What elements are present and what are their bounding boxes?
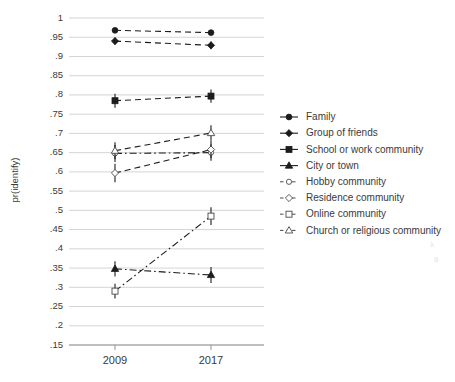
- legend-item-school-or-work-community[interactable]: School or work community: [280, 144, 423, 155]
- data-point-marker: [285, 227, 292, 233]
- series-group-of-friends: [111, 37, 214, 49]
- series-line: [115, 216, 211, 291]
- legend-item-label: School or work community: [306, 144, 423, 155]
- legend-item-label: Group of friends: [306, 127, 378, 138]
- legend-item-label: Family: [306, 111, 335, 122]
- data-point-marker: [112, 98, 118, 104]
- data-point-marker: [286, 211, 292, 217]
- watermark-artifact-2: 8: [434, 255, 439, 264]
- data-point-marker: [208, 213, 214, 219]
- series-line: [115, 30, 211, 32]
- data-point-marker: [285, 194, 292, 201]
- x-tick-label: 2017: [199, 354, 223, 366]
- series-family: [112, 27, 214, 35]
- y-tick-label: .65: [50, 146, 63, 157]
- legend-item-online-community[interactable]: Online community: [280, 208, 386, 219]
- gridlines-group: [69, 18, 264, 345]
- data-point-marker: [207, 42, 214, 49]
- x-axis-group: [69, 345, 264, 350]
- series-church-or-religious-community: [111, 125, 214, 159]
- legend-item-label: Church or religious community: [306, 225, 441, 236]
- data-point-marker: [286, 114, 292, 120]
- data-point-marker: [112, 27, 118, 33]
- series-city-or-town: [111, 261, 214, 283]
- y-tick-label: .2: [55, 319, 63, 330]
- legend-item-church-or-religious-community[interactable]: Church or religious community: [280, 225, 441, 236]
- y-tick-label: .25: [50, 300, 63, 311]
- data-point-marker: [208, 93, 214, 99]
- y-tick-label: .45: [50, 223, 63, 234]
- data-point-marker: [286, 179, 291, 184]
- y-tick-label: .7: [55, 127, 63, 138]
- legend-item-hobby-community[interactable]: Hobby community: [280, 176, 386, 187]
- y-axis-tick-labels: 1.95.9.85.8.75.7.65.6.55.5.45.4.35.3.25.…: [50, 12, 63, 350]
- series-school-or-work-community: [112, 90, 214, 108]
- y-tick-label: .3: [55, 281, 63, 292]
- y-tick-label: .85: [50, 69, 63, 80]
- y-axis-title: pr(identify): [9, 158, 20, 203]
- series-line: [115, 41, 211, 45]
- data-point-marker: [111, 37, 118, 44]
- y-tick-label: .55: [50, 185, 63, 196]
- watermark-artifact: λ: [430, 240, 434, 249]
- y-tick-label: .35: [50, 262, 63, 273]
- series-hobby-community: [112, 145, 213, 162]
- legend-item-label: Online community: [306, 208, 386, 219]
- series-residence-community: [111, 141, 214, 182]
- legend-item-residence-community[interactable]: Residence community: [280, 192, 404, 203]
- data-point-marker: [207, 129, 214, 135]
- x-tick-label: 2009: [103, 354, 127, 366]
- data-point-marker: [285, 130, 292, 137]
- data-point-marker: [285, 162, 292, 168]
- y-tick-label: .5: [55, 204, 63, 215]
- x-axis-tick-labels: 20092017: [103, 354, 223, 366]
- legend-item-family[interactable]: Family: [280, 111, 335, 122]
- y-tick-label: .4: [55, 242, 63, 253]
- chart-legend: FamilyGroup of friendsSchool or work com…: [280, 111, 441, 235]
- data-point-marker: [286, 146, 292, 152]
- y-tick-label: .8: [55, 88, 63, 99]
- legend-item-label: Hobby community: [306, 176, 386, 187]
- y-tick-label: .6: [55, 165, 63, 176]
- line-chart-svg: 1.95.9.85.8.75.7.65.6.55.5.45.4.35.3.25.…: [0, 0, 455, 382]
- legend-item-city-or-town[interactable]: City or town: [280, 160, 359, 171]
- y-tick-label: 1: [58, 12, 63, 23]
- series-online-community: [112, 207, 214, 298]
- y-tick-label: .15: [50, 339, 63, 350]
- data-point-marker: [208, 30, 214, 36]
- legend-item-label: City or town: [306, 160, 359, 171]
- data-series-group: [111, 27, 214, 298]
- y-tick-label: .95: [50, 31, 63, 42]
- series-line: [115, 269, 211, 275]
- series-line: [115, 133, 211, 151]
- y-tick-label: .9: [55, 50, 63, 61]
- chart-figure: 1.95.9.85.8.75.7.65.6.55.5.45.4.35.3.25.…: [0, 0, 455, 382]
- legend-item-group-of-friends[interactable]: Group of friends: [280, 127, 378, 138]
- series-line: [115, 96, 211, 101]
- data-point-marker: [112, 288, 118, 294]
- y-tick-label: .75: [50, 108, 63, 119]
- legend-item-label: Residence community: [306, 192, 404, 203]
- data-point-marker: [111, 169, 118, 176]
